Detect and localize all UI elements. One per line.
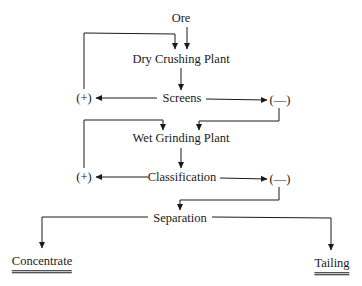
node-classification: Classification [148,171,217,184]
arrow-screens-to-minus [206,99,267,100]
flowsheet-diagram: Ore Dry Crushing Plant Screens (+) (—) W… [0,0,362,286]
arrow-minus-to-separation [180,187,279,210]
node-dry-crushing-plant: Dry Crushing Plant [132,53,229,66]
node-screens-oversize: (+) [76,92,91,105]
arrow-separation-to-concentrate [42,217,148,248]
arrow-separation-to-tailing [212,217,331,250]
node-separation: Separation [153,212,206,225]
arrow-classification-to-minus [220,178,267,179]
node-wet-grinding-plant: Wet Grinding Plant [133,132,230,145]
node-concentrate: Concentrate [12,255,72,273]
node-screens-undersize: (—) [270,94,291,107]
node-classification-undersize: (—) [270,173,291,186]
node-tailing: Tailing [314,257,349,275]
node-ore: Ore [172,12,191,25]
node-classification-oversize: (+) [76,171,91,184]
node-screens: Screens [163,92,202,105]
arrow-minus-to-grinding [199,108,279,130]
